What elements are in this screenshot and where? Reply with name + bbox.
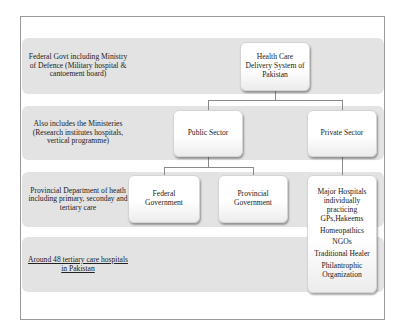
connector-private-up <box>342 100 343 110</box>
band-label-provincial: Provincial Department of heath including… <box>28 172 128 227</box>
node-provincial-government: Provincial Government <box>218 175 288 223</box>
node-public-sector: Public Sector <box>173 110 243 157</box>
private-item-traditional-healer: Traditional Healer <box>314 250 370 259</box>
connector-sector-horizontal <box>208 100 343 101</box>
private-item-major-hospitals: Major Hospitals individually practicing … <box>312 188 372 223</box>
private-item-homeopathics: Homeopathics <box>320 227 364 236</box>
node-root: Health Care Delivery System of Pakistan <box>240 42 310 91</box>
connector-root-down <box>275 91 276 100</box>
node-private-list: Major Hospitals individually practicing … <box>307 175 377 293</box>
private-item-ngos: NGOs <box>332 238 351 247</box>
connector-gov-horizontal <box>164 167 253 168</box>
connector-federal-up <box>164 167 165 175</box>
band-label-ministries: Also includes the Ministeries (Research … <box>28 106 128 160</box>
connector-provincial-up <box>253 167 254 175</box>
band-label-federal: Federal Govt including Ministry of Defen… <box>28 38 128 94</box>
private-item-philantrophic: Philantrophic Organization <box>312 262 372 280</box>
connector-public-up <box>208 100 209 110</box>
connector-public-down <box>208 157 209 167</box>
node-private-sector: Private Sector <box>307 110 377 157</box>
node-federal-government: Federal Government <box>128 175 200 223</box>
band-label-tertiary: Around 48 tertiary care hospitals in Pak… <box>28 237 128 292</box>
connector-private-down <box>342 157 343 175</box>
